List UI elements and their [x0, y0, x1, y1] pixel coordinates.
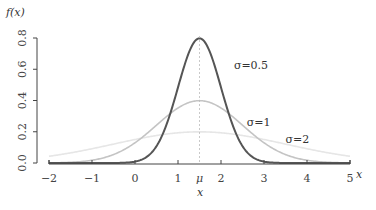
y-tick-label: 0.4 — [16, 92, 29, 110]
x-tick-label: 3 — [261, 172, 268, 185]
curve-label-sigma-1: σ=1 — [247, 116, 271, 129]
y-axis-title: f(x) — [5, 6, 25, 19]
curve-labels: σ=0.5σ=1σ=2 — [234, 59, 309, 145]
y-tick-label: 0.2 — [16, 123, 29, 141]
y-tick-label: 0.8 — [16, 29, 29, 47]
x-axis-title: x — [197, 186, 204, 199]
x-tick-label: 1 — [175, 172, 182, 185]
x-tick-label: −2 — [41, 172, 57, 185]
curve-label-sigma-2: σ=2 — [286, 133, 310, 146]
curve-label-sigma-0_5: σ=0.5 — [234, 59, 268, 72]
x-tick-label: 2 — [218, 172, 225, 185]
x-tick-label: 4 — [304, 172, 311, 185]
x-tick-label: μ — [196, 172, 203, 185]
y-ticks: 0.00.20.40.60.8 — [16, 29, 37, 172]
y-tick-label: 0.0 — [16, 154, 29, 172]
normal-distribution-chart: 0.00.20.40.60.8 −2−101μ2345 f(x) x x σ=0… — [0, 0, 376, 210]
x-tick-label: 5 — [347, 172, 354, 185]
x-axis-end-label: x — [356, 168, 363, 181]
x-tick-label: −1 — [84, 172, 100, 185]
x-tick-label: 0 — [132, 172, 139, 185]
y-tick-label: 0.6 — [16, 61, 29, 79]
axes-layer: 0.00.20.40.60.8 −2−101μ2345 — [16, 29, 354, 185]
